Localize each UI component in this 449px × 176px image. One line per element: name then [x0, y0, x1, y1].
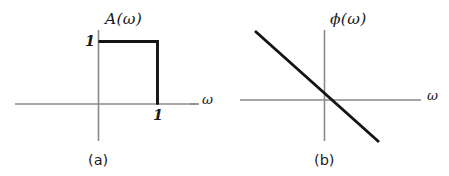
panel-b-y-axis-label: ϕ(ω) — [330, 12, 367, 28]
panel-a-x-axis-label: ω — [202, 93, 213, 107]
panel-b-caption: (b) — [314, 153, 335, 168]
panel-a-y-tick-label: 1 — [85, 34, 95, 49]
panel-a-caption: (a) — [88, 153, 108, 168]
figure-container: A(ω) 1 1 ω (a) ϕ(ω) ω (b) — [0, 0, 449, 176]
panel-a-x-tick-label: 1 — [153, 108, 163, 123]
panel-a-y-axis-label: A(ω) — [105, 12, 142, 28]
panel-b-x-axis-label: ω — [427, 89, 438, 103]
panel-b-group — [240, 30, 421, 142]
panel-b-linear-phase-curve — [255, 31, 379, 142]
panel-a-rect-pulse-curve — [99, 42, 158, 105]
panel-a-group — [15, 30, 199, 141]
figure-svg — [0, 0, 449, 176]
